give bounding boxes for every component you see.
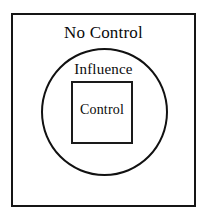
label-no-control: No Control bbox=[0, 23, 207, 42]
concentric-control-diagram: No Control Influence Control bbox=[0, 0, 207, 219]
label-control: Control bbox=[71, 102, 133, 118]
label-influence: Influence bbox=[0, 61, 207, 78]
